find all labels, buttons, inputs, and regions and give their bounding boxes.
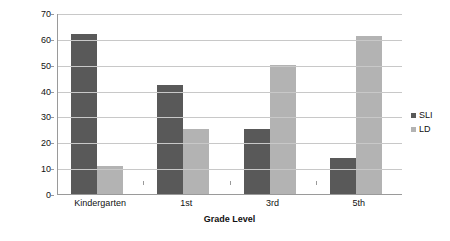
x-axis-title: Grade Level [57, 214, 402, 224]
legend-label: LD [419, 125, 431, 134]
bar-sli-1 [157, 85, 183, 194]
x-tick-label: Kindergarten [74, 198, 126, 208]
y-tick-mark [51, 40, 54, 41]
plot-area [57, 14, 402, 195]
gridline [58, 40, 402, 41]
y-tick-mark [51, 169, 54, 170]
gridline [58, 14, 402, 15]
y-tick-mark [51, 66, 54, 67]
y-tick-mark [51, 92, 54, 93]
y-tick-mark [51, 117, 54, 118]
x-tick-label: 1st [180, 198, 192, 208]
y-tick-mark [51, 14, 54, 15]
bar-sli-3 [330, 158, 356, 194]
y-tick-label: 40 [41, 87, 51, 96]
bar-ld-3 [356, 36, 382, 194]
x-tick-mark [230, 181, 231, 185]
legend-label: SLI [419, 111, 433, 120]
y-tick-mark [51, 195, 54, 196]
y-tick-label: 20 [41, 139, 51, 148]
gridline [58, 169, 402, 170]
y-tick-label: 60 [41, 35, 51, 44]
y-tick-label: 10 [41, 165, 51, 174]
chart-legend: SLILD [411, 108, 433, 136]
bars-layer [58, 14, 402, 194]
gridline [58, 92, 402, 93]
gridline [58, 117, 402, 118]
bar-ld-2 [270, 65, 296, 194]
y-tick-label: 30 [41, 113, 51, 122]
x-tick-label: 5th [353, 198, 366, 208]
legend-swatch-icon [411, 113, 416, 118]
y-tick-label: 70 [41, 10, 51, 19]
x-tick-mark [143, 181, 144, 185]
bar-chart: Percentage of Special Education 01020304… [0, 0, 450, 241]
gridline [58, 66, 402, 67]
gridline [58, 143, 402, 144]
x-tick-label: 3rd [266, 198, 279, 208]
legend-swatch-icon [411, 127, 416, 132]
legend-item-sli[interactable]: SLI [411, 108, 433, 122]
x-tick-mark [316, 181, 317, 185]
y-tick-mark [51, 143, 54, 144]
y-tick-label: 50 [41, 61, 51, 70]
bar-sli-2 [244, 129, 270, 194]
y-axis-ticks: 010203040506070 [26, 14, 54, 195]
bar-ld-1 [183, 129, 209, 194]
legend-item-ld[interactable]: LD [411, 122, 433, 136]
